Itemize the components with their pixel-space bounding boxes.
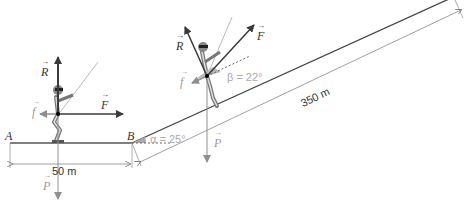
slope-weight-label: P [214,137,221,149]
flat-traction-label: F [101,99,108,111]
flat-weight-label: P [43,180,50,192]
physics-diagram: A B 50 m 350 m α = 25° β = 22° R F f P R… [0,0,464,203]
alpha-angle-label: α = 25° [150,134,186,145]
point-a-label: A [5,130,12,142]
point-b-label: B [127,130,134,142]
flat-distance-label: 50 m [52,166,76,177]
flat-friction-label: f [32,106,35,118]
slope-traction-label: F [257,30,264,42]
slope-friction-label: f [180,76,183,88]
flat-reaction-label: R [41,66,48,78]
slope-reaction-label: R [176,40,183,52]
beta-angle-label: β = 22° [227,72,263,83]
skier-flat [40,57,123,199]
